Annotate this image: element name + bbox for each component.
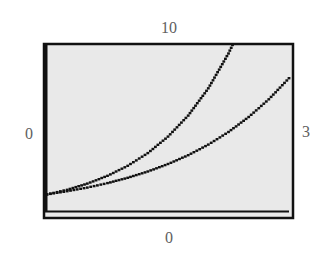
ymax-label: 10 xyxy=(161,20,177,36)
xmin-label: 0 xyxy=(25,126,33,142)
screen-background xyxy=(44,44,293,218)
xmax-label: 3 xyxy=(302,124,310,140)
graph-screen xyxy=(0,0,324,253)
ymin-label: 0 xyxy=(165,230,173,246)
